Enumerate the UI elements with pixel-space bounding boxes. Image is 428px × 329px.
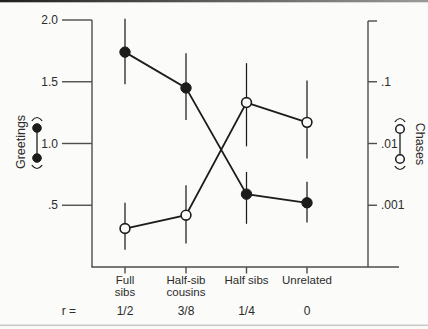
right-axis-tick-label: .001 — [381, 198, 405, 212]
x-category-label: sibs — [115, 286, 136, 298]
right-axis-tick-label: .1 — [381, 75, 391, 89]
chases-axis-title: Chases — [413, 123, 427, 165]
chases-point-marker — [302, 117, 312, 127]
left-axis-tick-label: 1.0 — [41, 137, 58, 151]
relatedness-value-label: 0 — [304, 304, 311, 318]
relatedness-value-label: 1/2 — [117, 304, 134, 318]
chases-point-marker — [120, 224, 130, 234]
x-category-label: Half-sib — [167, 274, 206, 286]
open-circle-icon — [396, 155, 405, 164]
x-category-label: Unrelated — [282, 274, 332, 286]
kin-recognition-line-chart: 2.01.51.0.5.1.01.001 FullsibsHalf-sibcou… — [0, 0, 428, 329]
greetings-axis-title: Greetings — [14, 115, 28, 169]
filled-circle-icon — [33, 154, 42, 163]
x-category-label: Full — [116, 274, 135, 286]
greetings-point-marker — [120, 47, 130, 57]
filled-circle-icon — [33, 124, 42, 133]
x-category-label: Half sibs — [224, 274, 268, 286]
greetings-point-marker — [302, 198, 312, 208]
open-circle-icon — [396, 125, 405, 134]
left-axis-tick-label: .5 — [48, 198, 58, 212]
chases-point-marker — [181, 210, 191, 220]
relatedness-value-label: 3/8 — [178, 304, 195, 318]
greetings-point-marker — [181, 83, 191, 93]
bottom-page-edge — [0, 325, 428, 327]
greetings-point-marker — [241, 189, 251, 199]
chases-point-marker — [242, 98, 252, 108]
relatedness-prefix-label: r = — [62, 304, 76, 318]
right-axis-tick-label: .01 — [381, 137, 398, 151]
relatedness-value-label: 1/4 — [238, 304, 255, 318]
left-axis-tick-label: 1.5 — [41, 75, 58, 89]
kin-recognition-figure: 2.01.51.0.5.1.01.001 FullsibsHalf-sibcou… — [0, 0, 428, 329]
x-category-label: cousins — [167, 286, 206, 298]
left-axis-tick-label: 2.0 — [41, 13, 58, 27]
top-page-edge — [0, 0, 428, 2]
